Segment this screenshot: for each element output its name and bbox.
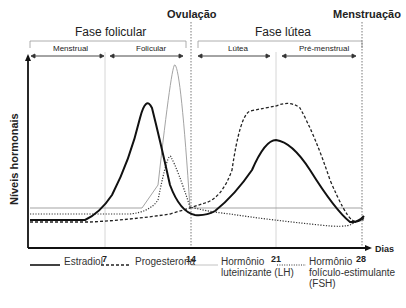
phase-follicular-label: Fase folicular	[75, 25, 146, 39]
legend-label-fsh-1: Hormônio	[309, 256, 395, 267]
sub-luteal-label: Lútea	[228, 44, 249, 53]
series-estradiol	[30, 103, 364, 222]
subphase-arrows	[31, 54, 356, 58]
sub-premenstrual-label: Pré-menstrual	[299, 44, 349, 53]
legend-item-estradiol: Estradiol	[64, 256, 103, 267]
legend-item-fsh: Hormônio folículo-estimulante (FSH)	[309, 256, 395, 289]
y-axis-label: Níveis hormonais	[8, 113, 20, 205]
x-axis-label: Dias	[375, 244, 394, 254]
legend-item-lh: Hormônio luteinizante (LH)	[221, 256, 294, 278]
legend-label-fsh-3: (FSH)	[309, 278, 395, 289]
ovulation-label: Ovulação	[167, 8, 217, 20]
legend-label-lh-2: luteinizante (LH)	[221, 267, 294, 278]
legend-label-lh-1: Hormônio	[221, 256, 294, 267]
menstruation-label: Menstruação	[333, 8, 401, 20]
sub-follicular-label: Folicular	[136, 44, 167, 53]
sub-menstrual-label: Menstrual	[53, 44, 88, 53]
x-axis-arrow-icon	[365, 245, 372, 251]
phase-luteal-label: Fase lútea	[255, 25, 311, 39]
y-axis-arrow-icon	[25, 54, 31, 61]
legend-item-progesterone: Progesterona	[135, 256, 195, 267]
series-lh	[30, 65, 362, 208]
legend-label-progesterone: Progesterona	[135, 256, 195, 267]
series-progesterone	[30, 103, 364, 222]
legend-label-fsh-2: folículo-estimulante	[309, 267, 395, 278]
legend-label-estradiol: Estradiol	[64, 256, 103, 267]
